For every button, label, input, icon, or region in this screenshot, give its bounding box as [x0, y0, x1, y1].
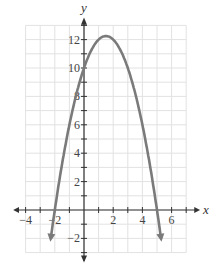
- y-tick-label: 2: [74, 175, 80, 189]
- x-tick-label: 6: [169, 213, 175, 227]
- y-tick-label: 4: [74, 146, 80, 160]
- y-tick-label: 6: [74, 118, 80, 132]
- y-axis-label: y: [79, 0, 87, 15]
- x-axis-label: x: [202, 202, 209, 217]
- x-tick-label: −4: [19, 213, 32, 227]
- y-tick-label: −2: [67, 231, 80, 245]
- x-tick-label: 4: [139, 213, 145, 227]
- y-tick-label: 12: [68, 33, 80, 47]
- x-tick-label: 2: [110, 213, 116, 227]
- parabola-chart: −4−2246−224681012 x y: [0, 0, 215, 270]
- y-tick-label: 10: [68, 61, 80, 75]
